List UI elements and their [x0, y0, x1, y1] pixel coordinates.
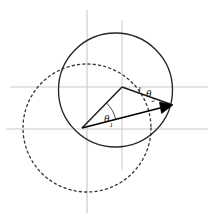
theta1-label: θ1: [104, 109, 113, 128]
solid-circle: [59, 33, 173, 147]
figure-container: θ1 θ2: [0, 0, 218, 223]
vector-shaft: [82, 107, 164, 128]
theta2-subscript: 2: [151, 96, 155, 104]
theta1-subscript: 1: [109, 121, 113, 129]
caption-strip: [0, 213, 218, 223]
theta2-label: θ2: [146, 84, 155, 103]
segment-vertex-to-hub: [82, 87, 122, 128]
